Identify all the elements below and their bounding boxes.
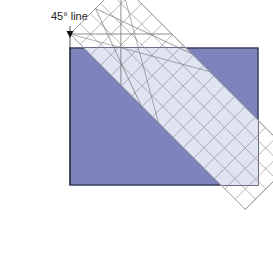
quilting-ruler-diagram (0, 0, 273, 265)
